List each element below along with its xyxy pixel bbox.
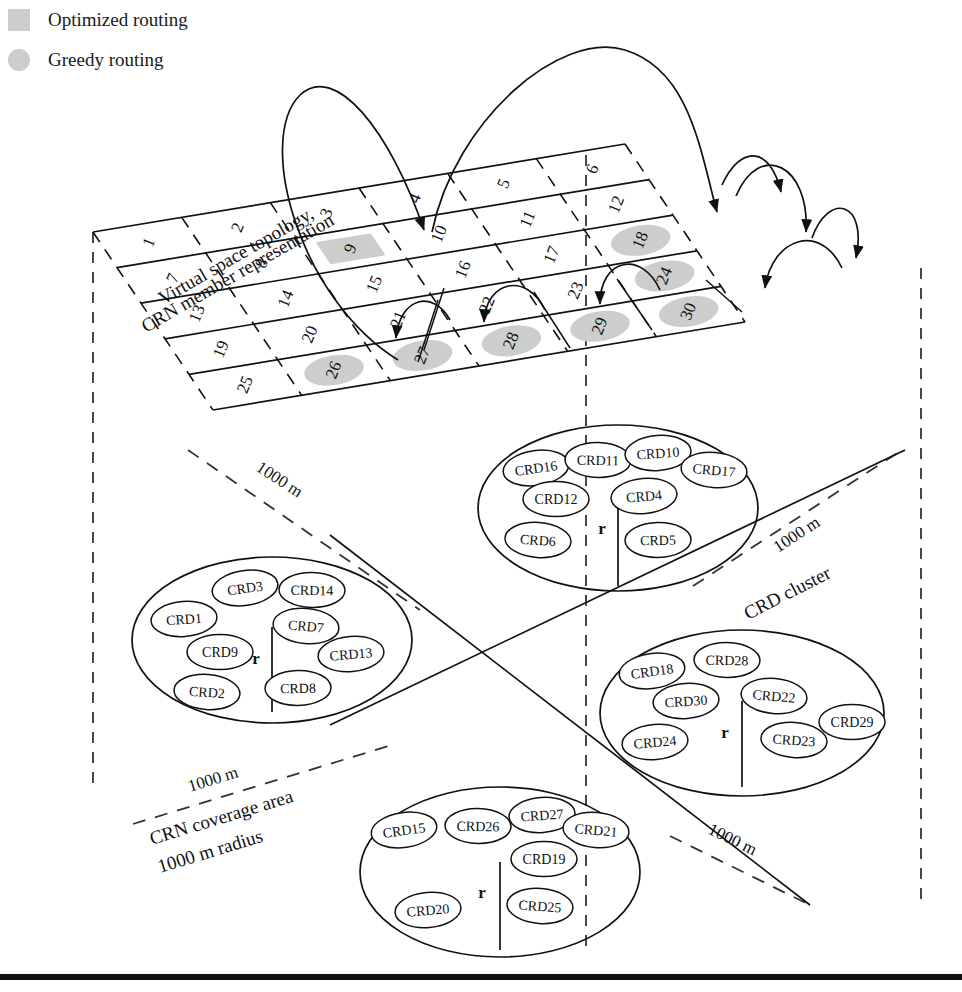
crd-node-label: CRD4 [626, 487, 663, 505]
crd-node-CRD19[interactable]: CRD19 [511, 842, 577, 877]
greedy-arc-18-to-24 [736, 165, 806, 232]
crd-node-label: CRD1 [166, 611, 203, 628]
figure-bottom-rule [0, 974, 962, 980]
crd-node-CRD1[interactable]: CRD1 [150, 599, 218, 639]
crd-node-CRD23[interactable]: CRD23 [760, 720, 828, 760]
crd-node-CRD14[interactable]: CRD14 [279, 572, 346, 608]
crd-node-label: CRD29 [831, 715, 874, 730]
crd-node-CRD3[interactable]: CRD3 [210, 566, 280, 610]
cluster-bottom-radius-label: r [478, 883, 486, 902]
dim-label-bottom-left: 1000 m [186, 763, 241, 796]
figure-canvas: Optimized routing Greedy routing [0, 0, 962, 992]
cluster-left: rCRD3CRD14CRD1CRD7CRD9CRD13CRD2CRD8 [132, 557, 412, 723]
crd-node-label: CRD26 [456, 819, 499, 835]
crd-node-label: CRD19 [523, 852, 566, 867]
crd-node-label: CRD27 [520, 807, 564, 825]
crd-node-CRD24[interactable]: CRD24 [621, 722, 690, 763]
cluster-bottom: rCRD15CRD26CRD27CRD21CRD19CRD20CRD25 [360, 787, 640, 957]
grid-cell-17[interactable]: 17 [540, 243, 564, 266]
crd-node-label: CRD2 [189, 684, 226, 701]
crd-node-CRD26[interactable]: CRD26 [445, 808, 512, 844]
crd-node-CRD28[interactable]: CRD28 [694, 642, 761, 678]
crd-node-CRD15[interactable]: CRD15 [369, 808, 439, 852]
grid-cell-10[interactable]: 10 [427, 222, 451, 245]
cluster-right-radius-label: r [721, 723, 729, 742]
dim-label-bottom-right: 1000 m [705, 820, 760, 860]
crd-node-CRD21[interactable]: CRD21 [562, 810, 631, 851]
crd-node-CRD25[interactable]: CRD25 [506, 886, 574, 926]
crd-node-CRD29[interactable]: CRD29 [819, 705, 885, 740]
crd-node-label: CRD7 [287, 617, 324, 635]
crd-node-CRD7[interactable]: CRD7 [272, 606, 341, 647]
crd-node-label: CRD5 [640, 533, 676, 549]
grid-cell-14[interactable]: 14 [274, 287, 298, 310]
grid-cell-25[interactable]: 25 [233, 373, 257, 396]
grid-cell-1[interactable]: 1 [138, 235, 159, 250]
caption-crd-cluster: CRD cluster [740, 562, 834, 624]
crd-node-label: CRD11 [577, 453, 620, 469]
crd-node-label: CRD6 [520, 532, 557, 549]
greedy-arc-30-to-29 [765, 241, 842, 288]
grid-cell-20[interactable]: 20 [298, 323, 322, 346]
crd-node-label: CRD30 [664, 693, 708, 711]
crd-node-label: CRD25 [518, 898, 562, 916]
grid-cell-11[interactable]: 11 [516, 208, 540, 230]
crd-node-label: CRD23 [772, 732, 816, 750]
optimized-arc-9-to-12 [432, 47, 717, 232]
crd-node-label: CRD28 [705, 653, 748, 669]
crd-node-CRD2[interactable]: CRD2 [173, 672, 241, 712]
crd-node-label: CRD10 [636, 445, 680, 463]
grid-cell-2[interactable]: 2 [227, 220, 248, 235]
crd-node-CRD20[interactable]: CRD20 [394, 890, 463, 931]
grid-cell-15[interactable]: 15 [362, 273, 386, 296]
grid-cell-23[interactable]: 23 [564, 279, 588, 302]
crd-node-CRD11[interactable]: CRD11 [565, 442, 632, 478]
dim-label-top-left: 1000 m [253, 457, 307, 501]
crd-node-CRD8[interactable]: CRD8 [265, 670, 332, 706]
crd-node-CRD6[interactable]: CRD6 [504, 520, 572, 560]
greedy-arc-24-to-30 [812, 208, 858, 258]
crd-node-label: CRD12 [535, 492, 578, 507]
crd-node-CRD4[interactable]: CRD4 [610, 476, 679, 517]
cluster-top: rCRD16CRD11CRD10CRD17CRD12CRD4CRD6CRD5 [478, 425, 758, 591]
crd-node-CRD12[interactable]: CRD12 [523, 482, 589, 517]
crd-node-CRD9[interactable]: CRD9 [187, 635, 253, 670]
cluster-right: rCRD18CRD28CRD30CRD22CRD29CRD24CRD23 [600, 630, 885, 796]
cluster-top-radius-label: r [598, 519, 606, 538]
network-diagram: 1234567891011121314151617181920212223242… [0, 0, 962, 992]
crd-clusters: rCRD16CRD11CRD10CRD17CRD12CRD4CRD6CRD5rC… [132, 425, 885, 957]
grid-cell-6[interactable]: 6 [582, 161, 603, 176]
crd-node-CRD17[interactable]: CRD17 [680, 450, 749, 491]
grid-cell-19[interactable]: 19 [209, 338, 233, 361]
grid-cell-12[interactable]: 12 [604, 193, 628, 216]
crd-node-label: CRD9 [202, 645, 238, 660]
grid-cell-16[interactable]: 16 [451, 258, 475, 281]
crd-node-CRD22[interactable]: CRD22 [740, 676, 809, 717]
crd-node-CRD5[interactable]: CRD5 [625, 522, 692, 558]
grid-cell-5[interactable]: 5 [493, 176, 514, 191]
crd-node-label: CRD8 [280, 681, 316, 697]
crd-node-label: CRD14 [290, 583, 333, 599]
